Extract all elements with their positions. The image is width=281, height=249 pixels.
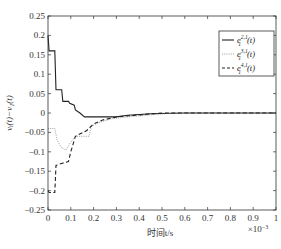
- y-tick-label: 0: [41, 108, 46, 118]
- x-tick-label: 0.3: [111, 213, 123, 223]
- y-tick-label: 0.05: [29, 89, 45, 99]
- x-tick-label: 0.9: [248, 213, 260, 223]
- y-axis-title: vᵢ(t)−v₁(t): [4, 95, 14, 131]
- x-tick-label: 0.6: [179, 213, 191, 223]
- y-tick-label: −0.1: [29, 147, 45, 157]
- y-tick-label: −0.25: [24, 205, 45, 215]
- x-tick-label: 0.5: [156, 213, 168, 223]
- x-tick-label: 0.2: [88, 213, 99, 223]
- x-tick-label: 1: [274, 213, 279, 223]
- x-tick-label: 0.1: [65, 213, 76, 223]
- legend: e2,11(t)e3,11(t)e4,11(t): [219, 31, 274, 76]
- series-line-2: [48, 113, 276, 150]
- series-line-3: [48, 113, 276, 193]
- x-tick-label: 0: [46, 213, 51, 223]
- y-tick-label: −0.15: [24, 166, 45, 176]
- y-tick-label: 0.25: [29, 11, 45, 21]
- x-tick-label: 0.4: [134, 213, 146, 223]
- x-axis-multiplier: ×10−3: [248, 224, 268, 234]
- y-tick-label: 0.15: [29, 50, 45, 60]
- x-tick-label: 0.8: [225, 213, 237, 223]
- line-chart: 00.10.20.30.40.50.60.70.80.910.250.20.15…: [0, 0, 281, 249]
- y-tick-label: 0.2: [34, 30, 45, 40]
- x-tick-label: 0.7: [202, 213, 214, 223]
- x-axis-title: 时间t/s: [147, 227, 174, 238]
- y-tick-label: −0.2: [29, 186, 45, 196]
- y-tick-label: 0.1: [34, 69, 45, 79]
- y-tick-label: −0.05: [24, 127, 45, 137]
